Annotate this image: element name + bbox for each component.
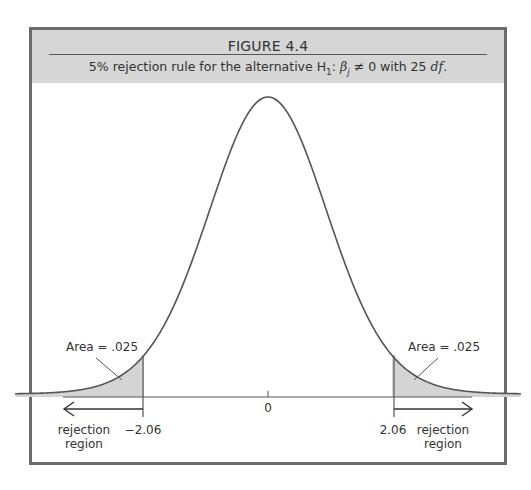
left-region-label-1: rejection <box>58 423 110 437</box>
left-critical-value: −2.06 <box>125 423 162 437</box>
right-region-label-2: region <box>424 437 462 451</box>
right-critical-value: 2.06 <box>380 423 407 437</box>
right-area-label: Area = .025 <box>408 340 480 354</box>
left-area-label: Area = .025 <box>66 340 138 354</box>
left-area-leader <box>96 358 122 380</box>
left-region-label-2: region <box>65 437 103 451</box>
t-distribution-chart: Area = .025 Area = .025 −2.06 2.06 0 rej… <box>0 0 531 490</box>
rejection-shading <box>15 355 521 397</box>
right-region-label-1: rejection <box>417 423 469 437</box>
right-area-leader <box>414 358 438 380</box>
center-value: 0 <box>264 401 272 415</box>
